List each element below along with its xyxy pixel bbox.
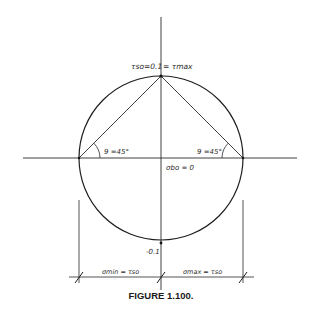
- label-angle-left: 9 =45°: [104, 148, 129, 156]
- point-tau-max: [159, 74, 162, 77]
- label-angle-right: 9 =45°: [197, 148, 222, 156]
- label-center-sigma: σbo = 0: [166, 164, 194, 172]
- label-tau-max: = τmax: [163, 62, 193, 71]
- angle-arc-left: [94, 143, 100, 158]
- label-bottom-point: -0.1: [146, 248, 160, 256]
- point-bottom: [160, 242, 163, 245]
- label-tau-so: τso=0.1: [131, 62, 162, 71]
- point-left: [78, 157, 80, 159]
- label-sigma-max: σmax = τso: [183, 268, 222, 276]
- point-right: [242, 157, 244, 159]
- chord-right: [161, 76, 243, 158]
- figure-caption: FIGURE 1.100.: [129, 290, 194, 301]
- angle-arc-right: [222, 143, 228, 158]
- label-sigma-min: σmin = τso: [102, 268, 139, 276]
- chord-left: [79, 76, 161, 158]
- mohr-circle-diagram: τso=0.1 = τmax 9 =45° 9 =45° σbo = 0 -0.…: [0, 0, 314, 310]
